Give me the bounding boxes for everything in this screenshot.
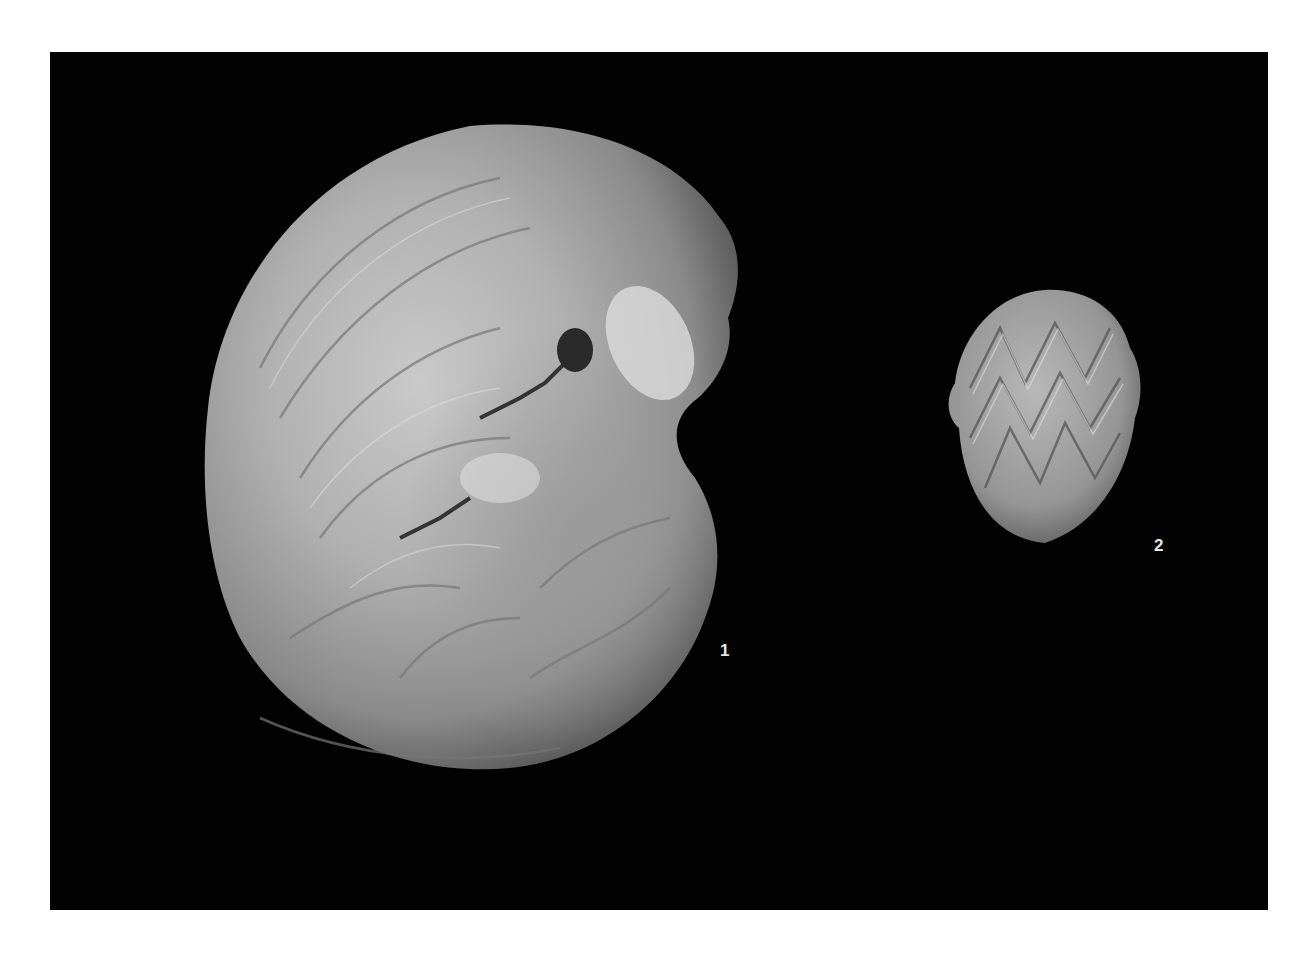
fossil-shell-1 [200, 118, 740, 783]
photo-plate: 1 2 [50, 52, 1268, 910]
figure-label-1: 1 [720, 642, 729, 659]
fossil-shell-2 [945, 288, 1145, 548]
figure-label-2: 2 [1154, 537, 1163, 554]
